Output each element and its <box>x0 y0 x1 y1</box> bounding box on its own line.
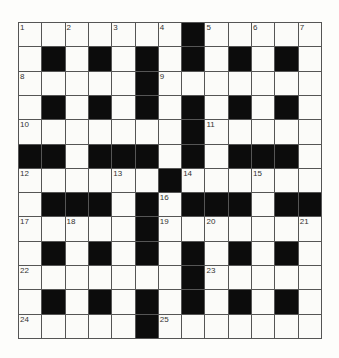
answer-cell[interactable] <box>205 169 227 192</box>
answer-cell[interactable] <box>252 217 274 240</box>
answer-cell[interactable] <box>229 169 251 192</box>
answer-cell[interactable] <box>182 72 204 95</box>
answer-cell[interactable] <box>252 193 274 216</box>
answer-cell[interactable] <box>89 120 111 143</box>
answer-cell[interactable] <box>159 290 181 313</box>
answer-cell[interactable]: 11 <box>205 120 227 143</box>
answer-cell[interactable] <box>66 96 88 119</box>
answer-cell[interactable] <box>275 23 297 46</box>
answer-cell[interactable] <box>229 72 251 95</box>
answer-cell[interactable]: 7 <box>299 23 321 46</box>
answer-cell[interactable] <box>205 47 227 70</box>
answer-cell[interactable] <box>205 290 227 313</box>
answer-cell[interactable] <box>159 242 181 265</box>
answer-cell[interactable]: 17 <box>19 217 41 240</box>
answer-cell[interactable] <box>299 266 321 289</box>
answer-cell[interactable] <box>159 145 181 168</box>
answer-cell[interactable]: 13 <box>112 169 134 192</box>
answer-cell[interactable] <box>136 169 158 192</box>
answer-cell[interactable] <box>229 23 251 46</box>
answer-cell[interactable]: 1 <box>19 23 41 46</box>
answer-cell[interactable]: 5 <box>205 23 227 46</box>
answer-cell[interactable] <box>275 169 297 192</box>
answer-cell[interactable] <box>66 242 88 265</box>
answer-cell[interactable]: 4 <box>159 23 181 46</box>
answer-cell[interactable] <box>229 315 251 338</box>
answer-cell[interactable] <box>89 217 111 240</box>
answer-cell[interactable] <box>159 120 181 143</box>
answer-cell[interactable] <box>89 169 111 192</box>
answer-cell[interactable]: 25 <box>159 315 181 338</box>
answer-cell[interactable] <box>42 120 64 143</box>
answer-cell[interactable] <box>42 315 64 338</box>
answer-cell[interactable]: 2 <box>66 23 88 46</box>
answer-cell[interactable] <box>66 169 88 192</box>
answer-cell[interactable] <box>112 120 134 143</box>
answer-cell[interactable] <box>159 266 181 289</box>
answer-cell[interactable] <box>252 72 274 95</box>
answer-cell[interactable]: 12 <box>19 169 41 192</box>
answer-cell[interactable] <box>112 217 134 240</box>
answer-cell[interactable] <box>229 120 251 143</box>
answer-cell[interactable] <box>112 242 134 265</box>
answer-cell[interactable] <box>299 169 321 192</box>
answer-cell[interactable] <box>299 242 321 265</box>
answer-cell[interactable]: 21 <box>299 217 321 240</box>
answer-cell[interactable]: 22 <box>19 266 41 289</box>
answer-cell[interactable] <box>136 120 158 143</box>
answer-cell[interactable] <box>42 169 64 192</box>
answer-cell[interactable] <box>66 266 88 289</box>
answer-cell[interactable] <box>112 193 134 216</box>
answer-cell[interactable] <box>205 315 227 338</box>
answer-cell[interactable] <box>252 242 274 265</box>
answer-cell[interactable] <box>19 47 41 70</box>
answer-cell[interactable] <box>89 315 111 338</box>
answer-cell[interactable] <box>229 217 251 240</box>
answer-cell[interactable] <box>66 290 88 313</box>
answer-cell[interactable]: 16 <box>159 193 181 216</box>
answer-cell[interactable] <box>19 242 41 265</box>
answer-cell[interactable] <box>159 96 181 119</box>
answer-cell[interactable] <box>112 47 134 70</box>
answer-cell[interactable]: 9 <box>159 72 181 95</box>
answer-cell[interactable] <box>89 23 111 46</box>
answer-cell[interactable] <box>252 96 274 119</box>
answer-cell[interactable] <box>299 145 321 168</box>
answer-cell[interactable]: 20 <box>205 217 227 240</box>
answer-cell[interactable] <box>42 217 64 240</box>
answer-cell[interactable] <box>66 72 88 95</box>
answer-cell[interactable] <box>66 145 88 168</box>
answer-cell[interactable] <box>182 217 204 240</box>
answer-cell[interactable] <box>299 72 321 95</box>
answer-cell[interactable] <box>205 72 227 95</box>
answer-cell[interactable]: 15 <box>252 169 274 192</box>
answer-cell[interactable] <box>89 266 111 289</box>
answer-cell[interactable] <box>159 47 181 70</box>
answer-cell[interactable] <box>252 47 274 70</box>
answer-cell[interactable] <box>112 290 134 313</box>
answer-cell[interactable] <box>299 47 321 70</box>
answer-cell[interactable] <box>136 23 158 46</box>
answer-cell[interactable] <box>19 193 41 216</box>
answer-cell[interactable] <box>112 96 134 119</box>
answer-cell[interactable] <box>89 72 111 95</box>
answer-cell[interactable] <box>19 290 41 313</box>
answer-cell[interactable]: 8 <box>19 72 41 95</box>
answer-cell[interactable]: 23 <box>205 266 227 289</box>
answer-cell[interactable] <box>205 242 227 265</box>
answer-cell[interactable] <box>299 315 321 338</box>
answer-cell[interactable]: 24 <box>19 315 41 338</box>
answer-cell[interactable]: 19 <box>159 217 181 240</box>
answer-cell[interactable] <box>42 23 64 46</box>
answer-cell[interactable] <box>275 120 297 143</box>
answer-cell[interactable]: 6 <box>252 23 274 46</box>
answer-cell[interactable] <box>205 145 227 168</box>
answer-cell[interactable] <box>66 315 88 338</box>
answer-cell[interactable]: 3 <box>112 23 134 46</box>
answer-cell[interactable] <box>252 290 274 313</box>
answer-cell[interactable] <box>205 96 227 119</box>
answer-cell[interactable] <box>112 266 134 289</box>
answer-cell[interactable] <box>182 315 204 338</box>
answer-cell[interactable] <box>66 47 88 70</box>
answer-cell[interactable]: 14 <box>182 169 204 192</box>
